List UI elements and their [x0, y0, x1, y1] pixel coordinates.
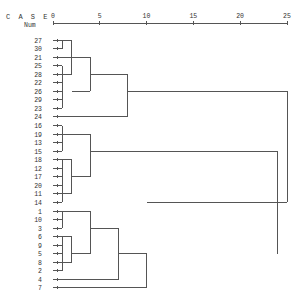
case-label: 22: [34, 80, 42, 87]
case-header: C A S E: [6, 13, 49, 21]
axis-tick-label: 15: [189, 13, 197, 20]
case-label: 14: [34, 200, 42, 207]
case-label: 3: [38, 226, 42, 233]
case-label: 27: [34, 38, 42, 45]
case-label: 23: [34, 106, 42, 113]
case-label: 28: [34, 72, 42, 79]
axis-tick-label: 10: [143, 13, 151, 20]
case-label: 10: [34, 217, 42, 224]
case-label: 30: [34, 46, 42, 53]
axis-tick-label: 0: [51, 13, 55, 20]
case-label: 6: [38, 234, 42, 241]
axis-tick-label: 25: [283, 13, 291, 20]
axis-tick-label: 5: [98, 13, 102, 20]
case-label: 20: [34, 183, 42, 190]
case-label: 11: [34, 191, 42, 198]
distance-axis: 0510152025: [51, 13, 291, 25]
case-label: 19: [34, 132, 42, 139]
case-label: 8: [38, 260, 42, 267]
case-labels: 2730212528222629232416191315181217201114…: [34, 38, 42, 293]
case-label: 26: [34, 89, 42, 96]
num-header: Num: [24, 22, 36, 29]
case-label: 13: [34, 140, 42, 147]
case-label: 4: [38, 277, 42, 284]
case-label: 1: [38, 209, 42, 216]
case-label: 18: [34, 157, 42, 164]
case-label: 21: [34, 55, 42, 62]
case-label: 29: [34, 97, 42, 104]
case-label: 16: [34, 123, 42, 130]
case-label: 7: [38, 285, 42, 292]
case-label: 17: [34, 174, 42, 181]
dendrogram-chart: C A S E Num 0510152025 27302125282226292…: [0, 0, 304, 307]
case-label: 12: [34, 166, 42, 173]
case-label: 25: [34, 63, 42, 70]
case-label: 5: [38, 251, 42, 258]
dendrogram-tree: [53, 39, 287, 290]
case-label: 2: [38, 268, 42, 275]
case-label: 24: [34, 114, 42, 121]
case-label: 15: [34, 149, 42, 156]
axis-tick-label: 20: [236, 13, 244, 20]
case-label: 9: [38, 243, 42, 250]
